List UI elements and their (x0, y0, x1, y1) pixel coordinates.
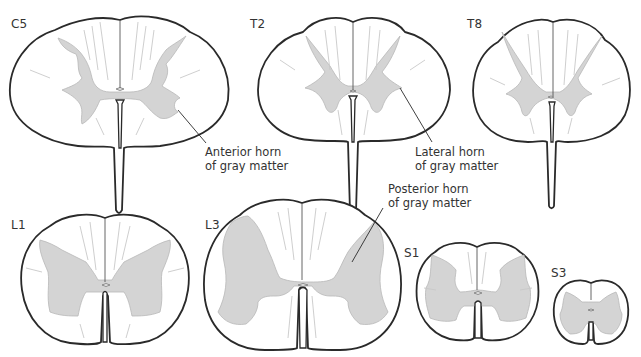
section-t8 (473, 20, 630, 209)
annotation-posterior-horn-line2: of gray matter (388, 196, 471, 210)
annotation-anterior-horn-line1: Anterior horn (205, 145, 288, 159)
section-label-s3: S3 (551, 266, 567, 280)
annotation-anterior-horn-line2: of gray matter (205, 159, 288, 173)
section-label-l1: L1 (11, 218, 26, 232)
section-label-c5: C5 (11, 17, 27, 31)
annotation-lateral-horn: Lateral horn of gray matter (415, 145, 498, 173)
section-s3 (554, 280, 629, 344)
annotation-posterior-horn: Posterior horn of gray matter (388, 182, 471, 210)
section-c5 (10, 16, 229, 213)
section-l3 (204, 200, 401, 350)
section-label-s1: S1 (404, 246, 420, 260)
section-s1 (417, 243, 539, 341)
spinal-cord-diagram (0, 0, 641, 357)
section-label-t2: T2 (250, 17, 265, 31)
section-label-t8: T8 (467, 17, 482, 31)
section-label-l3: L3 (205, 218, 220, 232)
annotation-posterior-horn-line1: Posterior horn (388, 182, 471, 196)
annotation-lateral-horn-line1: Lateral horn (415, 145, 498, 159)
annotation-anterior-horn: Anterior horn of gray matter (205, 145, 288, 173)
section-l1 (21, 215, 189, 344)
annotation-lateral-horn-line2: of gray matter (415, 159, 498, 173)
